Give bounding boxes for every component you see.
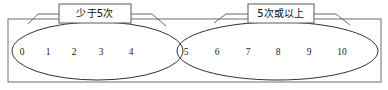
set-member-4: 4 (129, 48, 134, 58)
set-member-0: 0 (20, 48, 25, 58)
leader-left-set-east (131, 14, 166, 26)
set-member-1: 1 (46, 48, 51, 58)
set-ellipse-left (12, 22, 183, 80)
set-member-8: 8 (276, 48, 281, 58)
set-member-5: 5 (184, 48, 189, 58)
venn-diagram-container: 少于5次 5次或以上 012345678910 (0, 0, 388, 90)
venn-diagram-canvas (0, 0, 388, 90)
set-member-10: 10 (337, 48, 347, 58)
set-member-7: 7 (246, 48, 251, 58)
set-label-right: 5次或以上 (257, 9, 304, 19)
universal-set-rectangle (8, 19, 381, 82)
set-member-3: 3 (99, 48, 104, 58)
set-label-left: 少于5次 (76, 9, 113, 19)
set-member-6: 6 (215, 48, 220, 58)
set-member-9: 9 (307, 48, 312, 58)
set-member-2: 2 (72, 48, 77, 58)
